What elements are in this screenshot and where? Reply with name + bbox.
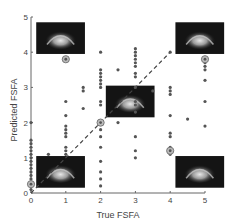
data-point bbox=[169, 93, 172, 96]
y-tick-label: 3 bbox=[24, 83, 29, 92]
data-point bbox=[203, 65, 206, 68]
data-point bbox=[99, 170, 102, 173]
data-point bbox=[134, 110, 137, 113]
data-point bbox=[116, 68, 119, 71]
data-point bbox=[134, 47, 137, 50]
data-point bbox=[134, 100, 137, 103]
data-point bbox=[169, 135, 172, 138]
data-point bbox=[99, 103, 102, 106]
image-fsfa-4-low bbox=[175, 156, 224, 188]
data-point bbox=[134, 72, 137, 75]
data-point bbox=[29, 146, 32, 149]
x-tick-label: 4 bbox=[168, 196, 173, 205]
data-point bbox=[203, 79, 206, 82]
mean-marker-center bbox=[204, 58, 207, 61]
data-point bbox=[134, 149, 137, 152]
data-point bbox=[64, 135, 67, 138]
data-point bbox=[64, 146, 67, 149]
data-point bbox=[29, 188, 32, 191]
data-point bbox=[134, 58, 137, 61]
data-point bbox=[169, 51, 172, 54]
data-point bbox=[134, 51, 137, 54]
data-point bbox=[203, 125, 206, 128]
data-point bbox=[29, 170, 32, 173]
data-point bbox=[29, 163, 32, 166]
x-tick-label: 0 bbox=[29, 196, 34, 205]
data-point bbox=[29, 160, 32, 163]
data-point bbox=[203, 68, 206, 71]
image-fsfa-4-high bbox=[175, 22, 224, 54]
x-axis-label: True FSFA bbox=[96, 210, 139, 220]
data-point bbox=[169, 114, 172, 117]
mean-marker-center bbox=[64, 58, 67, 61]
inset-images bbox=[36, 22, 224, 187]
data-point bbox=[99, 75, 102, 78]
data-point bbox=[64, 132, 67, 135]
data-point bbox=[134, 61, 137, 64]
image-fsfa-0 bbox=[36, 156, 85, 188]
image-fsfa-2 bbox=[106, 86, 155, 118]
data-point bbox=[29, 153, 32, 156]
data-point bbox=[64, 100, 67, 103]
x-tick-label: 1 bbox=[64, 196, 69, 205]
data-point bbox=[29, 139, 32, 142]
data-point bbox=[99, 177, 102, 180]
data-point bbox=[186, 117, 189, 120]
inset-shape bbox=[45, 30, 76, 49]
data-point bbox=[29, 149, 32, 152]
data-point bbox=[134, 103, 137, 106]
data-point bbox=[99, 51, 102, 54]
data-point bbox=[64, 153, 67, 156]
data-point bbox=[169, 86, 172, 89]
data-point bbox=[29, 142, 32, 145]
data-point bbox=[29, 121, 32, 124]
data-point bbox=[99, 135, 102, 138]
data-point bbox=[134, 75, 137, 78]
y-axis-label: Predicted FSFA bbox=[9, 78, 19, 141]
inset-shape bbox=[184, 164, 215, 183]
image-fsfa-1 bbox=[36, 22, 85, 54]
data-point bbox=[151, 89, 154, 92]
data-point bbox=[29, 156, 32, 159]
data-point bbox=[99, 68, 102, 71]
data-point bbox=[99, 184, 102, 187]
data-point bbox=[99, 72, 102, 75]
data-point bbox=[82, 89, 85, 92]
data-point bbox=[29, 167, 32, 170]
data-point bbox=[82, 86, 85, 89]
data-point bbox=[134, 54, 137, 57]
mean-marker-center bbox=[99, 121, 102, 124]
data-point bbox=[99, 100, 102, 103]
data-point bbox=[169, 132, 172, 135]
mean-marker-center bbox=[30, 183, 33, 186]
data-point bbox=[99, 86, 102, 89]
data-point bbox=[64, 149, 67, 152]
data-point bbox=[134, 135, 137, 138]
y-tick-label: 2 bbox=[24, 119, 29, 128]
data-point bbox=[99, 82, 102, 85]
data-point bbox=[99, 160, 102, 163]
data-point bbox=[203, 100, 206, 103]
data-point bbox=[47, 153, 50, 156]
y-tick-label: 4 bbox=[24, 48, 29, 57]
mean-marker-center bbox=[169, 149, 172, 152]
x-tick-label: 2 bbox=[98, 196, 103, 205]
y-tick-label: 1 bbox=[24, 154, 29, 163]
inset-shape bbox=[184, 30, 215, 49]
x-tick-label: 5 bbox=[203, 196, 208, 205]
data-point bbox=[99, 79, 102, 82]
y-tick-label: 5 bbox=[24, 13, 29, 22]
data-point bbox=[64, 128, 67, 131]
data-point bbox=[116, 121, 119, 124]
data-point bbox=[64, 125, 67, 128]
data-point bbox=[134, 65, 137, 68]
data-point bbox=[64, 114, 67, 117]
scatter-chart: 012345012345 True FSFA Predicted FSFA bbox=[0, 0, 238, 223]
data-point bbox=[99, 146, 102, 149]
data-point bbox=[29, 174, 32, 177]
y-tick-label: 0 bbox=[24, 189, 29, 198]
data-point bbox=[134, 86, 137, 89]
inset-shape bbox=[45, 164, 76, 183]
data-point bbox=[169, 89, 172, 92]
data-point bbox=[29, 177, 32, 180]
